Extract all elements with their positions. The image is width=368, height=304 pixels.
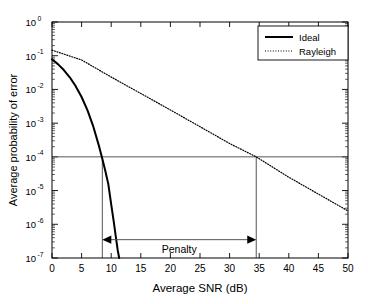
y-tick-label: 10-4	[25, 149, 43, 163]
y-tick-label: 10-3	[25, 116, 43, 129]
legend: IdealRayleigh	[258, 26, 348, 60]
y-tick-exponent: -2	[38, 82, 44, 89]
x-tick-label: 30	[224, 263, 236, 274]
y-tick-label: 10-6	[25, 217, 43, 231]
x-tick-label: 25	[194, 263, 206, 274]
x-tick-label: 50	[342, 263, 354, 274]
y-tick-exponent: 0	[38, 15, 42, 22]
y-tick-mantissa: 10	[25, 51, 36, 62]
y-tick-exponent: -6	[38, 217, 44, 224]
y-tick-mantissa: 10	[25, 84, 36, 95]
y-tick-mantissa: 10	[25, 152, 36, 163]
y-tick-label: 10-5	[25, 183, 43, 197]
y-tick-label: 10-1	[25, 48, 43, 62]
x-tick-label: 0	[49, 263, 55, 274]
bit-error-rate-plot: 10010-110-210-310-410-510-610-7051015202…	[0, 0, 368, 304]
legend-label-ideal: Ideal	[299, 32, 320, 43]
x-tick-label: 20	[165, 263, 177, 274]
y-tick-exponent: -1	[38, 48, 44, 55]
y-tick-mantissa: 10	[25, 17, 36, 28]
y-tick-label: 10-7	[25, 251, 43, 265]
x-tick-label: 10	[106, 263, 118, 274]
y-tick-mantissa: 10	[25, 118, 36, 129]
y-tick-exponent: -4	[38, 149, 44, 156]
y-tick-mantissa: 10	[25, 219, 36, 230]
x-tick-label: 5	[79, 263, 85, 274]
legend-label-rayleigh: Rayleigh	[299, 46, 336, 57]
x-tick-label: 45	[313, 263, 325, 274]
y-axis-label: Average probability of error	[7, 73, 19, 206]
x-tick-label: 40	[283, 263, 295, 274]
y-tick-mantissa: 10	[25, 186, 36, 197]
y-tick-mantissa: 10	[25, 253, 36, 264]
y-tick-label: 100	[25, 15, 41, 29]
x-tick-label: 15	[135, 263, 147, 274]
x-axis-label: Average SNR (dB)	[152, 282, 247, 294]
y-tick-label: 10-2	[25, 82, 43, 96]
penalty-label: Penalty	[162, 243, 198, 255]
y-tick-exponent: -3	[38, 116, 44, 123]
y-tick-exponent: -7	[38, 251, 44, 258]
chart-figure: 10010-110-210-310-410-510-610-7051015202…	[0, 0, 368, 304]
x-tick-label: 35	[254, 263, 266, 274]
y-tick-exponent: -5	[38, 183, 44, 190]
